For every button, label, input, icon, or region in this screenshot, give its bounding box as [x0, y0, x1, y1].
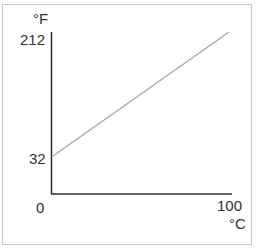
origin-tick: 0: [36, 200, 44, 215]
x-max-tick: 100: [217, 198, 242, 213]
conversion-line: [53, 32, 229, 156]
y-mid-tick: 32: [29, 151, 46, 166]
y-max-tick: 212: [20, 32, 45, 47]
y-unit-label: °F: [33, 11, 48, 26]
x-unit-label: °C: [229, 216, 246, 231]
